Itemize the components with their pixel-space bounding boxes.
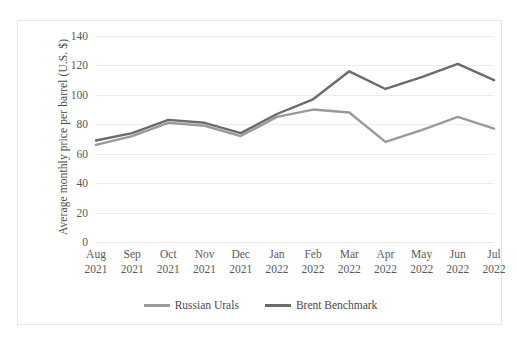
x-axis: Aug2021Sep2021Oct2021Nov2021Dec2021Jan20… xyxy=(96,247,494,285)
x-tick-line: 2022 xyxy=(265,262,288,277)
x-tick-label: Jan2022 xyxy=(265,247,288,276)
x-tick-label: Dec2021 xyxy=(229,247,252,276)
x-tick-label: May2022 xyxy=(410,247,433,276)
x-tick-label: Mar2022 xyxy=(338,247,361,276)
x-tick-line: May xyxy=(410,247,433,262)
x-tick-line: 2022 xyxy=(483,262,506,277)
y-axis-title: Average monthly price per barrel (U.S. $… xyxy=(57,22,69,252)
x-tick-line: Apr xyxy=(374,247,397,262)
chart-legend: Russian UralsBrent Benchmark xyxy=(18,299,503,311)
x-tick-label: Nov2021 xyxy=(193,247,216,276)
x-tick-line: Jun xyxy=(446,247,469,262)
y-tick-label: 20 xyxy=(77,207,89,219)
x-tick-line: 2021 xyxy=(193,262,216,277)
x-tick-line: 2021 xyxy=(157,262,180,277)
series-line-russian-urals xyxy=(96,110,494,145)
x-tick-label: Oct2021 xyxy=(157,247,180,276)
legend-item-brent-benchmark[interactable]: Brent Benchmark xyxy=(265,299,377,311)
legend-swatch xyxy=(144,304,170,307)
y-tick-label: 140 xyxy=(71,30,88,42)
x-tick-line: 2022 xyxy=(410,262,433,277)
plot-area: 140120100806040200 xyxy=(96,36,494,242)
x-tick-line: Jan xyxy=(265,247,288,262)
gridline: 0 xyxy=(96,242,494,243)
x-tick-line: 2022 xyxy=(302,262,325,277)
x-tick-label: Jul2022 xyxy=(483,247,506,276)
series-lines xyxy=(96,36,494,242)
x-tick-line: 2022 xyxy=(374,262,397,277)
x-tick-line: Oct xyxy=(157,247,180,262)
x-tick-line: Dec xyxy=(229,247,252,262)
legend-label: Brent Benchmark xyxy=(296,299,377,311)
x-tick-line: Nov xyxy=(193,247,216,262)
x-tick-line: 2022 xyxy=(446,262,469,277)
x-tick-label: Aug2021 xyxy=(85,247,108,276)
y-tick-label: 100 xyxy=(71,89,88,101)
x-tick-label: Jun2022 xyxy=(446,247,469,276)
x-tick-line: Aug xyxy=(85,247,108,262)
legend-label: Russian Urals xyxy=(175,299,239,311)
chart-frame: Average monthly price per barrel (U.S. $… xyxy=(17,20,502,325)
x-tick-label: Sep2021 xyxy=(121,247,144,276)
x-tick-line: 2022 xyxy=(338,262,361,277)
x-tick-line: 2021 xyxy=(85,262,108,277)
y-tick-label: 60 xyxy=(77,148,89,160)
x-tick-line: Jul xyxy=(483,247,506,262)
x-tick-label: Feb2022 xyxy=(302,247,325,276)
y-tick-label: 40 xyxy=(77,177,89,189)
y-tick-label: 80 xyxy=(77,118,89,130)
x-tick-line: 2021 xyxy=(229,262,252,277)
x-tick-line: Sep xyxy=(121,247,144,262)
legend-swatch xyxy=(265,304,291,307)
legend-item-russian-urals[interactable]: Russian Urals xyxy=(144,299,239,311)
x-tick-label: Apr2022 xyxy=(374,247,397,276)
x-tick-line: Mar xyxy=(338,247,361,262)
series-line-brent-benchmark xyxy=(96,64,494,141)
x-tick-line: 2021 xyxy=(121,262,144,277)
x-tick-line: Feb xyxy=(302,247,325,262)
y-tick-label: 120 xyxy=(71,59,88,71)
